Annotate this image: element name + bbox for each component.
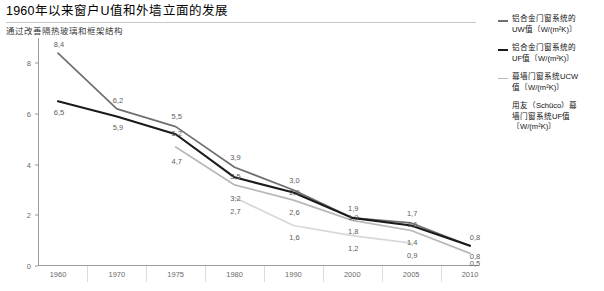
x-axis-tick-labels: 19601970197519801990200020052010 — [38, 270, 478, 286]
data-point-label: 1,8 — [348, 227, 358, 236]
y-axis-tick-mark — [35, 266, 38, 267]
legend-item[interactable]: 铝合金门窗系统的UF值〔W/(m²K)〕 — [498, 43, 602, 64]
data-point-label: 1,7 — [407, 208, 417, 217]
series-line — [176, 147, 470, 253]
legend-item-label-line: 值〔W/(m²K)〕 — [512, 83, 578, 94]
legend-item[interactable]: 铝合金门窗系统的UW值〔W/(m²K)〕 — [498, 14, 602, 35]
x-axis-separator — [264, 266, 265, 282]
line-series-group — [38, 38, 478, 266]
x-axis-tick-label: 1980 — [226, 270, 243, 279]
legend-item-label: 铝合金门窗系统的UW值〔W/(m²K)〕 — [512, 14, 577, 35]
data-point-label: 0,5 — [470, 259, 480, 268]
data-point-label: 1,6 — [407, 220, 417, 229]
x-axis-separator — [441, 266, 442, 282]
x-axis-tick-label: 1960 — [50, 270, 67, 279]
chart-header: 1960年以来窗户U值和外墙立面的发展 通过改善隔热玻璃和框架结构 — [6, 4, 476, 37]
header-divider — [6, 22, 476, 23]
data-point-label: 3,9 — [230, 153, 240, 162]
x-axis-separator — [205, 266, 206, 282]
legend-item-label-line: 墙门窗系统UF值 — [512, 112, 577, 123]
data-point-label: 5,9 — [113, 122, 123, 131]
data-point-label: 5,2 — [171, 129, 181, 138]
legend-item-label-line: UF值〔W/(m²K)〕 — [512, 54, 576, 65]
plot-area: 024688,46,25,53,93,01,91,70,86,55,95,23,… — [38, 38, 478, 266]
data-point-label: 1,6 — [289, 233, 299, 242]
data-point-label: 5,5 — [171, 111, 181, 120]
data-point-label: 2,7 — [230, 206, 240, 215]
data-point-label: 3,2 — [230, 193, 240, 202]
x-axis-tick-label: 2010 — [462, 270, 479, 279]
data-point-label: 3,0 — [289, 176, 299, 185]
x-axis-separator — [87, 266, 88, 282]
legend-item-label: 用友（Schüco）幕墙门窗系统UF值〔W/(m²K)〕 — [512, 101, 577, 133]
x-axis-tick-label: 1970 — [109, 270, 126, 279]
data-point-label: 2,9 — [289, 187, 299, 196]
data-point-label: 8,4 — [54, 40, 64, 49]
data-point-label: 1,9 — [348, 203, 358, 212]
legend-item-label-line: 〔W/(m²K)〕 — [512, 122, 577, 133]
chart-page: 1960年以来窗户U值和外墙立面的发展 通过改善隔热玻璃和框架结构 024688… — [0, 0, 604, 291]
legend-swatch-icon — [498, 75, 508, 83]
legend-swatch-icon — [498, 17, 508, 25]
legend-item-label: 铝合金门窗系统的UF值〔W/(m²K)〕 — [512, 43, 576, 64]
data-point-label: 2,6 — [289, 208, 299, 217]
legend-item-label-line: 幕墙门窗系统UCW — [512, 72, 578, 83]
y-axis-tick-label: 2 — [27, 211, 31, 220]
y-axis-tick-mark — [35, 114, 38, 115]
legend-item-label-line: UW值〔W/(m²K)〕 — [512, 25, 577, 36]
page-title: 1960年以来窗户U值和外墙立面的发展 — [6, 4, 476, 19]
data-point-label: 1,9 — [348, 212, 358, 221]
y-axis-tick-mark — [35, 215, 38, 216]
x-axis-separator — [323, 266, 324, 282]
y-axis-tick-mark — [35, 164, 38, 165]
y-axis-tick-label: 4 — [27, 160, 31, 169]
data-point-label: 0,9 — [407, 251, 417, 260]
legend-item[interactable]: 幕墙门窗系统UCW值〔W/(m²K)〕 — [498, 72, 602, 93]
chart-legend: 铝合金门窗系统的UW值〔W/(m²K)〕铝合金门窗系统的UF值〔W/(m²K)〕… — [498, 14, 602, 141]
x-axis-tick-label: 2000 — [344, 270, 361, 279]
data-point-label: 6,2 — [113, 95, 123, 104]
legend-swatch-icon — [498, 46, 508, 54]
x-axis-separator — [146, 266, 147, 282]
data-point-label: 4,7 — [171, 156, 181, 165]
y-axis-tick-mark — [35, 63, 38, 64]
y-axis-tick-label: 0 — [27, 262, 31, 271]
data-point-label: 6,5 — [54, 108, 64, 117]
legend-item-label-line: 用友（Schüco）幕 — [512, 101, 577, 112]
x-axis-separator — [382, 266, 383, 282]
x-axis-tick-label: 2005 — [403, 270, 420, 279]
legend-item[interactable]: 用友（Schüco）幕墙门窗系统UF值〔W/(m²K)〕 — [498, 101, 602, 133]
legend-item-label-line: 铝合金门窗系统的 — [512, 43, 576, 54]
legend-item-label-line: 铝合金门窗系统的 — [512, 14, 577, 25]
x-axis-tick-label: 1975 — [167, 270, 184, 279]
data-point-label: 3,5 — [230, 172, 240, 181]
y-axis-tick-label: 6 — [27, 110, 31, 119]
data-point-label: 1,2 — [348, 243, 358, 252]
legend-item-label: 幕墙门窗系统UCW值〔W/(m²K)〕 — [512, 72, 578, 93]
data-point-label: 1,4 — [407, 237, 417, 246]
y-axis-tick-label: 8 — [27, 59, 31, 68]
x-axis-tick-label: 1990 — [285, 270, 302, 279]
page-subtitle: 通过改善隔热玻璃和框架结构 — [6, 26, 476, 37]
data-point-label: 0,8 — [470, 232, 480, 241]
